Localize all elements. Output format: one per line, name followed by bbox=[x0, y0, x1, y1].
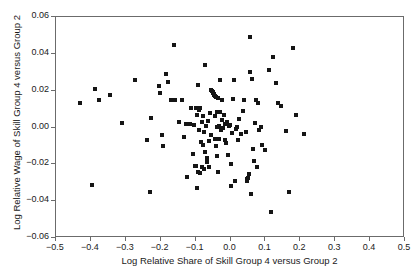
data-point bbox=[202, 130, 206, 134]
data-point bbox=[242, 98, 246, 102]
data-point bbox=[226, 153, 230, 157]
data-point bbox=[239, 132, 243, 136]
data-point bbox=[120, 121, 124, 125]
data-point bbox=[203, 63, 207, 67]
data-point bbox=[249, 192, 253, 196]
data-point bbox=[108, 93, 112, 97]
data-point bbox=[241, 109, 245, 113]
x-axis-tick-label: 0.1 bbox=[249, 242, 279, 253]
data-point bbox=[236, 138, 240, 142]
data-point bbox=[250, 77, 254, 81]
data-point bbox=[255, 165, 259, 169]
y-axis-tick bbox=[51, 127, 55, 128]
data-point bbox=[220, 118, 224, 122]
x-axis-tick-label: −0.5 bbox=[40, 242, 70, 253]
data-point bbox=[274, 81, 278, 85]
data-point bbox=[195, 186, 199, 190]
x-axis-tick bbox=[195, 237, 196, 241]
x-axis-tick bbox=[55, 237, 56, 241]
data-point bbox=[220, 98, 224, 102]
data-point bbox=[158, 91, 162, 95]
data-point bbox=[194, 164, 198, 168]
y-axis-tick bbox=[51, 237, 55, 238]
data-point bbox=[90, 183, 94, 187]
data-point bbox=[205, 160, 209, 164]
data-point bbox=[164, 72, 168, 76]
data-point bbox=[287, 190, 291, 194]
data-point bbox=[214, 144, 218, 148]
data-point bbox=[235, 125, 239, 129]
data-point bbox=[230, 131, 234, 135]
data-point bbox=[291, 46, 295, 50]
x-axis-tick bbox=[369, 237, 370, 241]
x-axis-tick bbox=[125, 237, 126, 241]
data-point bbox=[263, 148, 267, 152]
x-axis-tick bbox=[334, 237, 335, 241]
data-point bbox=[157, 84, 161, 88]
y-axis-title: Log Relative Wage of Skill Group 4 versu… bbox=[11, 0, 22, 248]
data-point bbox=[207, 139, 211, 143]
data-point bbox=[204, 124, 208, 128]
y-axis-tick bbox=[51, 200, 55, 201]
data-point bbox=[182, 135, 186, 139]
x-axis-tick-label: 0.2 bbox=[284, 242, 314, 253]
data-point bbox=[172, 43, 176, 47]
data-point bbox=[221, 126, 225, 130]
data-point bbox=[185, 175, 189, 179]
x-axis-tick-label: −0.4 bbox=[75, 242, 105, 253]
data-point bbox=[302, 132, 306, 136]
data-point bbox=[197, 128, 201, 132]
x-axis-tick-label: −0.3 bbox=[110, 242, 140, 253]
data-point bbox=[180, 98, 184, 102]
data-point bbox=[202, 167, 206, 171]
data-point bbox=[253, 121, 257, 125]
y-axis-tick bbox=[51, 53, 55, 54]
data-point bbox=[192, 123, 196, 127]
data-point bbox=[248, 70, 252, 74]
x-axis-tick-label: −0.1 bbox=[180, 242, 210, 253]
data-point bbox=[252, 159, 256, 163]
data-point bbox=[294, 113, 298, 117]
x-axis-tick bbox=[299, 237, 300, 241]
data-point bbox=[279, 104, 283, 108]
data-point bbox=[218, 78, 222, 82]
data-point bbox=[267, 68, 271, 72]
data-point bbox=[271, 55, 275, 59]
data-point bbox=[166, 80, 170, 84]
y-axis-tick bbox=[51, 90, 55, 91]
data-point bbox=[208, 111, 212, 115]
data-point bbox=[231, 97, 235, 101]
data-point bbox=[213, 114, 217, 118]
data-point bbox=[251, 147, 255, 151]
data-point bbox=[232, 78, 236, 82]
data-point bbox=[133, 78, 137, 82]
data-point bbox=[195, 113, 199, 117]
data-point bbox=[228, 123, 232, 127]
data-point bbox=[224, 141, 228, 145]
x-axis-tick bbox=[90, 237, 91, 241]
data-point bbox=[237, 117, 241, 121]
data-point bbox=[149, 116, 153, 120]
data-point bbox=[259, 125, 263, 129]
data-point bbox=[97, 98, 101, 102]
x-axis-tick bbox=[160, 237, 161, 241]
y-axis-tick bbox=[51, 16, 55, 17]
scatter-chart-figure: −0.06−0.04−0.020.000.020.040.06 Log Rela… bbox=[0, 0, 418, 275]
data-point bbox=[206, 119, 210, 123]
x-axis-tick-label: 0.4 bbox=[354, 242, 384, 253]
x-axis-tick bbox=[230, 237, 231, 241]
data-point bbox=[189, 106, 193, 110]
data-point bbox=[173, 98, 177, 102]
data-point bbox=[78, 101, 82, 105]
data-point bbox=[160, 133, 164, 137]
data-point bbox=[198, 106, 202, 110]
data-point bbox=[260, 143, 264, 147]
data-point bbox=[201, 114, 205, 118]
x-axis-tick-label: 0.0 bbox=[215, 242, 245, 253]
data-point bbox=[247, 172, 251, 176]
data-point bbox=[215, 154, 219, 158]
data-point bbox=[269, 210, 273, 214]
data-point bbox=[148, 190, 152, 194]
x-axis-tick bbox=[264, 237, 265, 241]
data-point bbox=[207, 165, 211, 169]
